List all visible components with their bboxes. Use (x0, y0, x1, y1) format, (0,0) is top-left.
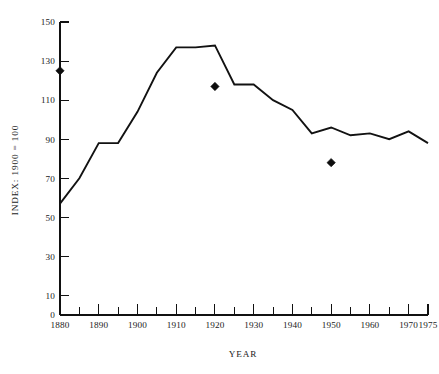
y-tick-label: 0 (50, 310, 55, 320)
y-tick-label: 150 (41, 17, 55, 27)
data-line-index-line (60, 45, 428, 203)
benchmark-marker (211, 82, 219, 90)
x-tick-label: 1940 (283, 320, 302, 330)
axes-group (60, 22, 428, 315)
x-tick-label: 1880 (51, 320, 70, 330)
x-tick-label: 1890 (89, 320, 108, 330)
y-axis-title: INDEX: 1900 = 100 (10, 125, 20, 216)
x-tick-label: 1900 (128, 320, 147, 330)
y-tick-label: 130 (41, 56, 55, 66)
x-tick-label: 1930 (244, 320, 263, 330)
y-tick-label: 10 (46, 291, 56, 301)
x-tick-label: 1975 (419, 320, 438, 330)
benchmark-marker (56, 67, 64, 75)
x-tick-label: 1950 (322, 320, 341, 330)
data-series-group (60, 45, 428, 203)
x-tick-label: 1960 (360, 320, 379, 330)
x-tick-label: 1920 (205, 320, 224, 330)
y-tick-label: 50 (46, 213, 56, 223)
chart-plot-area: 0103050709011013015018801890190019101920… (0, 0, 439, 374)
x-tick-label: 1970 (399, 320, 418, 330)
tick-labels-group: 0103050709011013015018801890190019101920… (41, 17, 438, 330)
y-tick-label: 30 (46, 252, 56, 262)
x-tick-label: 1910 (167, 320, 186, 330)
chart-figure: 0103050709011013015018801890190019101920… (0, 0, 439, 374)
benchmark-marker (327, 158, 335, 166)
y-tick-label: 110 (41, 95, 55, 105)
ticks-group (60, 22, 428, 315)
x-axis-title: YEAR (229, 349, 258, 359)
y-tick-label: 90 (46, 135, 56, 145)
benchmark-markers-group (56, 67, 336, 167)
y-tick-label: 70 (46, 174, 56, 184)
